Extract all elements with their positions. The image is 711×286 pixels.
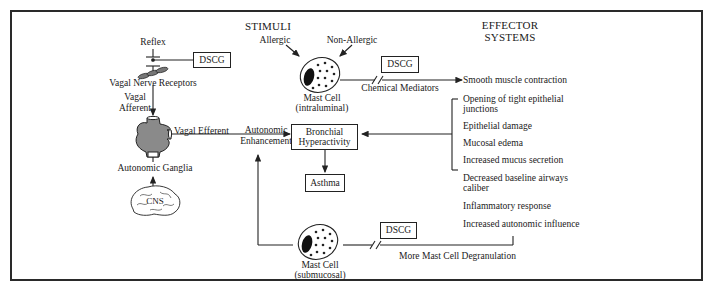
stimuli-header: STIMULI bbox=[245, 20, 291, 32]
bronchial-line2: Hyperactivity bbox=[298, 137, 350, 148]
bronchial-line1: Bronchial bbox=[306, 127, 343, 138]
effect-epithelial-damage: Epithelial damage bbox=[463, 121, 532, 132]
mast-cell-intraluminal-icon bbox=[295, 52, 344, 98]
effect-mucosal-edema: Mucosal edema bbox=[463, 138, 523, 149]
reflex-label: Reflex bbox=[140, 37, 165, 48]
effect-opening-tight-junctions-line2: junctions bbox=[463, 104, 498, 115]
asthma-box: Asthma bbox=[305, 174, 345, 192]
effect-increased-mucus-secretion: Increased mucus secretion bbox=[463, 155, 563, 166]
chemical-mediators-label: Chemical Mediators bbox=[361, 83, 438, 94]
effector-header-line2: SYSTEMS bbox=[485, 31, 536, 43]
mast-cell-submucosal-line2: (submucosal) bbox=[294, 270, 345, 281]
vagal-efferent-label: Vagal Efferent bbox=[174, 126, 229, 137]
effect-inflammatory-response: Inflammatory response bbox=[463, 201, 551, 212]
autonomic-ganglia-icon bbox=[136, 116, 172, 157]
effector-header-line1: EFFECTOR bbox=[482, 19, 538, 31]
more-mast-cell-degranulation-label: More Mast Cell Degranulation bbox=[399, 251, 516, 262]
mast-cell-intraluminal-line2: (intraluminal) bbox=[296, 103, 349, 114]
effect-increased-autonomic-influence: Increased autonomic influence bbox=[463, 219, 580, 230]
autonomic-enhancement-line2: Enhancement bbox=[240, 136, 292, 147]
non-allergic-label: Non-Allergic bbox=[327, 35, 377, 46]
effect-decreased-airways-caliber-line2: caliber bbox=[463, 183, 489, 194]
dscg-box-bottom: DSCG bbox=[380, 222, 417, 239]
vagal-afferent-line2: Afferent bbox=[119, 103, 151, 114]
bronchial-hyperactivity-box: Bronchial Hyperactivity bbox=[291, 124, 358, 150]
dscg-box-top: DSCG bbox=[381, 56, 419, 73]
vagal-nerve-receptors-label: Vagal Nerve Receptors bbox=[109, 78, 197, 89]
vagal-afferent-line1: Vagal bbox=[124, 92, 146, 103]
autonomic-ganglia-label: Autonomic Ganglia bbox=[117, 163, 192, 174]
allergic-label: Allergic bbox=[260, 35, 291, 46]
effect-smooth-muscle-contraction: Smooth muscle contraction bbox=[463, 75, 567, 86]
cns-label: CNS bbox=[146, 196, 164, 207]
autonomic-enhancement-line1: Autonomic bbox=[245, 125, 288, 136]
mast-cell-submucosal-icon bbox=[293, 219, 342, 265]
dscg-box-reflex: DSCG bbox=[193, 52, 231, 68]
